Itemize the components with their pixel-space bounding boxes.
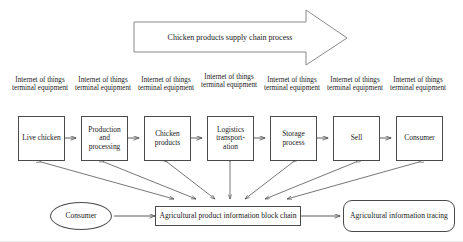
blockchain-node-label: Agricultural product information block c… [159, 212, 296, 221]
banner-label: Chicken products supply chain process [150, 33, 310, 42]
chain-stage-production-and-processing[interactable]: Production and processing [81, 116, 128, 161]
chain-stage-sell[interactable]: Sell [333, 116, 380, 161]
chain-stage-label: Live chicken [22, 134, 60, 142]
tracing-node-label: Agricultural information tracing [350, 211, 448, 220]
chain-stage-label: Sell [351, 134, 363, 142]
chain-stage-label: Chicken products [146, 130, 189, 147]
chain-stage-label: Storage process [272, 130, 315, 147]
iot-label-7: Internet of things terminal equipment [382, 76, 454, 93]
consumer-ellipse-node[interactable]: Consumer [50, 202, 112, 230]
iot-label-3: Internet of things terminal equipment [130, 76, 202, 93]
iot-label-5: Internet of things terminal equipment [256, 76, 328, 93]
chain-stage-live-chicken[interactable]: Live chicken [18, 116, 65, 161]
chain-stage-logistics-transportation[interactable]: Logistics transport-ation [207, 116, 254, 161]
iot-label-2: Internet of things terminal equipment [67, 76, 139, 93]
blockchain-link-arrows [41, 162, 419, 199]
chain-stage-label: Logistics transport-ation [209, 126, 252, 151]
chain-stage-label: Production and processing [83, 126, 126, 151]
iot-label-4: Internet of things terminal equipment [193, 73, 265, 90]
chain-stage-chicken-products[interactable]: Chicken products [144, 116, 191, 161]
iot-label-6: Internet of things terminal equipment [319, 76, 391, 93]
iot-label-1: Internet of things terminal equipment [4, 76, 76, 93]
consumer-ellipse-label: Consumer [65, 212, 96, 221]
blockchain-node[interactable]: Agricultural product information block c… [155, 206, 301, 226]
chain-stage-consumer[interactable]: Consumer [396, 116, 443, 161]
tracing-node[interactable]: Agricultural information tracing [343, 200, 455, 232]
chain-stage-storage-process[interactable]: Storage process [270, 116, 317, 161]
chain-stage-label: Consumer [404, 134, 434, 142]
supply-chain-diagram: Chicken products supply chain process In… [0, 0, 463, 242]
